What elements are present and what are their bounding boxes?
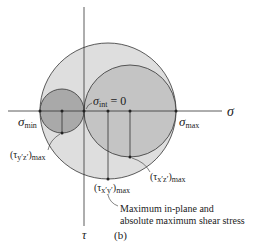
tau-xz-max-label: (τx′z′)max bbox=[150, 172, 186, 184]
sigma-max-label: σmax bbox=[179, 115, 199, 130]
sigma-min-label: σmin bbox=[18, 115, 37, 130]
panel-label: (b) bbox=[114, 230, 127, 241]
sigma-axis-label: σ bbox=[227, 105, 234, 119]
tau-yz-max-label: (τy′z′)max bbox=[10, 150, 46, 162]
annotation-text: Maximum in-plane and absolute maximum sh… bbox=[120, 203, 245, 227]
sigma-int-label: σint = 0 bbox=[93, 95, 126, 109]
tau-xy-max-label: (τx′y′)max bbox=[94, 183, 130, 195]
tau-axis-label: τ bbox=[82, 229, 86, 241]
